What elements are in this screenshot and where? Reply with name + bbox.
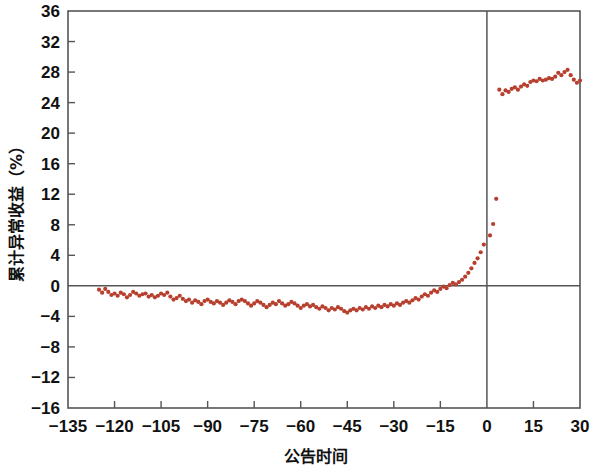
data-point: [553, 75, 557, 79]
data-point: [497, 88, 501, 92]
x-axis-title: 公告时间: [284, 447, 348, 466]
data-point: [274, 302, 278, 306]
x-tick-label: −75: [240, 417, 269, 436]
data-point: [525, 84, 529, 88]
y-tick-label: 32: [41, 33, 60, 52]
x-tick-label: 0: [482, 417, 491, 436]
data-point: [426, 294, 430, 298]
x-tick-label: −90: [193, 417, 222, 436]
x-tick-label: −135: [49, 417, 87, 436]
data-point: [578, 78, 582, 82]
y-tick-label: 4: [51, 246, 61, 265]
data-point: [559, 73, 563, 77]
data-point: [417, 297, 421, 301]
data-point: [106, 290, 110, 294]
data-point: [469, 266, 473, 270]
data-point: [187, 297, 191, 301]
data-point: [476, 256, 480, 260]
data-point: [165, 291, 169, 295]
data-point: [565, 68, 569, 72]
y-tick-label: 8: [51, 216, 60, 235]
y-tick-label: 0: [51, 277, 60, 296]
data-point: [178, 294, 182, 298]
data-point: [116, 294, 120, 298]
data-point-series: [97, 68, 582, 315]
data-point: [569, 73, 573, 77]
y-tick-label: −16: [31, 399, 60, 418]
data-point: [472, 261, 476, 265]
data-point: [233, 302, 237, 306]
y-tick-label: 28: [41, 63, 60, 82]
y-tick-label: 20: [41, 124, 60, 143]
x-tick-label: −105: [142, 417, 180, 436]
data-point: [168, 294, 172, 298]
data-point: [444, 286, 448, 290]
data-point: [494, 197, 498, 201]
data-point: [460, 278, 464, 282]
data-point: [491, 222, 495, 226]
y-tick-label: 36: [41, 2, 60, 21]
x-tick-label: −30: [379, 417, 408, 436]
x-tick-label: −120: [95, 417, 133, 436]
y-tick-label: −8: [41, 338, 60, 357]
data-point: [516, 88, 520, 92]
data-point: [97, 288, 101, 292]
x-axis-tick-marks: [115, 401, 534, 408]
x-tick-label: 30: [571, 417, 590, 436]
data-point: [100, 291, 104, 295]
y-axis-title: 累计异常收益（%）: [7, 138, 26, 282]
data-point: [435, 290, 439, 294]
data-point: [199, 302, 203, 306]
data-point: [572, 78, 576, 82]
y-axis-tick-marks: [68, 42, 75, 378]
cumulative-abnormal-return-chart: −16−12−8−404812162024283236 −135−120−105…: [0, 0, 590, 468]
plot-area-frame: [68, 11, 580, 408]
x-tick-label: 15: [524, 417, 543, 436]
y-tick-label: 16: [41, 155, 60, 174]
data-point: [103, 287, 107, 291]
y-tick-label: −12: [31, 368, 60, 387]
x-tick-label: −60: [286, 417, 315, 436]
data-point: [143, 291, 147, 295]
data-point: [466, 271, 470, 275]
y-axis-tick-labels: −16−12−8−404812162024283236: [31, 2, 60, 418]
y-tick-label: 12: [41, 185, 60, 204]
data-point: [488, 233, 492, 237]
data-point: [122, 292, 126, 296]
data-point: [479, 250, 483, 254]
chart-canvas: −16−12−8−404812162024283236 −135−120−105…: [0, 0, 590, 468]
x-axis-tick-labels: −135−120−105−90−75−60−45−30−1501530: [49, 417, 590, 436]
data-point: [463, 275, 467, 279]
x-tick-label: −45: [333, 417, 362, 436]
y-tick-label: 24: [41, 94, 60, 113]
x-tick-label: −15: [426, 417, 455, 436]
data-point: [500, 92, 504, 96]
data-point: [128, 293, 132, 297]
y-tick-label: −4: [41, 307, 61, 326]
data-point: [482, 243, 486, 247]
data-point: [507, 90, 511, 94]
